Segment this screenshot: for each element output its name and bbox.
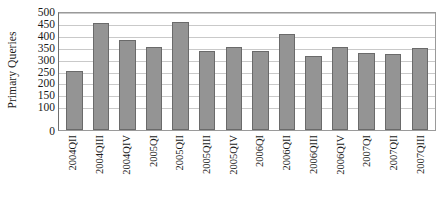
bar-slot — [247, 13, 274, 130]
x-axis-tick-label: 2005QII — [175, 135, 186, 171]
x-tick-slot: 2005QII — [167, 133, 194, 207]
bar-slot — [114, 13, 141, 130]
x-axis-tick-label: 2005QIII — [202, 135, 213, 174]
x-tick-slot: 2007QI — [354, 133, 381, 207]
x-tick-slot: 2007QIII — [407, 133, 434, 207]
bar[interactable] — [279, 34, 295, 130]
bar[interactable] — [358, 53, 374, 130]
bars-series — [59, 13, 435, 130]
y-axis-tick-label: 100 — [38, 102, 55, 113]
x-tick-slot: 2005QI — [140, 133, 167, 207]
x-axis-tick-label: 2004QIII — [95, 135, 106, 174]
y-axis-tick-label: 450 — [38, 18, 55, 29]
bar[interactable] — [332, 47, 348, 130]
bar[interactable] — [385, 54, 401, 130]
y-axis-tick-label: 400 — [38, 30, 55, 41]
y-axis-title-text: Primary Queries — [6, 31, 18, 108]
bar[interactable] — [146, 47, 162, 130]
plot-area — [58, 12, 436, 131]
y-axis-title: Primary Queries — [0, 0, 24, 140]
bar-slot — [88, 13, 115, 130]
bar-slot — [194, 13, 221, 130]
bar-slot — [300, 13, 327, 130]
y-axis-tick-label: 150 — [38, 90, 55, 101]
bar[interactable] — [252, 51, 268, 130]
x-axis-tick-label: 2006QIV — [336, 135, 347, 175]
x-tick-slot: 2007QII — [381, 133, 408, 207]
bar-slot — [167, 13, 194, 130]
bar-slot — [407, 13, 434, 130]
bar[interactable] — [226, 47, 242, 130]
x-tick-slot: 2004QIII — [87, 133, 114, 207]
x-axis-tick-label: 2004QIV — [122, 135, 133, 175]
x-tick-slot: 2006QII — [274, 133, 301, 207]
x-tick-slot: 2006QI — [247, 133, 274, 207]
bar[interactable] — [119, 40, 135, 130]
x-tick-slot: 2004QIV — [113, 133, 140, 207]
y-axis-tick-label: 350 — [38, 42, 55, 53]
bar[interactable] — [305, 56, 321, 130]
x-axis-tick-label: 2006QIII — [309, 135, 320, 174]
x-axis-tick-label: 2005QIV — [229, 135, 240, 175]
bar[interactable] — [412, 48, 428, 130]
x-axis-tick-label: 2005QI — [149, 135, 160, 167]
x-tick-slot: 2005QIV — [220, 133, 247, 207]
bar-chart: Primary Queries 010015020025030035040045… — [0, 0, 442, 207]
x-axis-tick-label: 2006QII — [282, 135, 293, 171]
y-axis-tick-label: 250 — [38, 66, 55, 77]
y-axis-tick-label: 0 — [49, 126, 55, 137]
bar-slot — [327, 13, 354, 130]
x-tick-slot: 2005QIII — [194, 133, 221, 207]
y-axis-tick-labels: 0100150200250300350400450500 — [24, 12, 58, 131]
x-tick-slot: 2006QIII — [300, 133, 327, 207]
x-axis-tick-label: 2007QII — [389, 135, 400, 171]
x-tick-slot: 2004QII — [60, 133, 87, 207]
x-axis-tick-label: 2007QIII — [416, 135, 427, 174]
bar[interactable] — [172, 22, 188, 130]
y-axis-tick-label: 300 — [38, 54, 55, 65]
bar-slot — [380, 13, 407, 130]
x-axis-tick-label: 2006QI — [255, 135, 266, 167]
x-tick-slot: 2006QIV — [327, 133, 354, 207]
bar[interactable] — [93, 23, 109, 130]
bar[interactable] — [66, 71, 82, 131]
x-axis-tick-label: 2007QI — [362, 135, 373, 167]
bar-slot — [353, 13, 380, 130]
x-axis-tick-labels: 2004QII2004QIII2004QIV2005QI2005QII2005Q… — [58, 133, 436, 207]
bar-slot — [220, 13, 247, 130]
bar-slot — [61, 13, 88, 130]
y-axis-tick-label: 200 — [38, 78, 55, 89]
bar[interactable] — [199, 51, 215, 130]
bar-slot — [141, 13, 168, 130]
x-axis-tick-label: 2004QII — [68, 135, 79, 171]
bar-slot — [274, 13, 301, 130]
y-axis-tick-label: 500 — [38, 7, 55, 18]
